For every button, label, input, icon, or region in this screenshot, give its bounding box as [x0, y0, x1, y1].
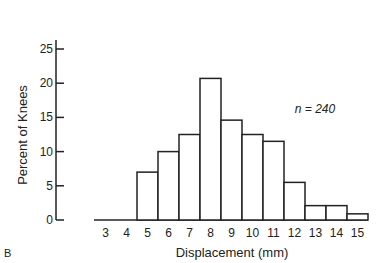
y-tick-label: 15: [40, 110, 54, 124]
x-tick-label: 4: [123, 226, 130, 240]
bar-10: [242, 135, 263, 221]
x-tick-label: 3: [102, 226, 109, 240]
y-tick-label: 20: [40, 76, 54, 90]
bar-15: [347, 214, 368, 220]
histogram-chart: 0510152025 3456789101112131415 Percent o…: [0, 0, 392, 263]
y-tick-label: 10: [40, 145, 54, 159]
bar-8: [200, 78, 221, 220]
x-tick-labels: 3456789101112131415: [102, 226, 364, 240]
bars: [94, 78, 368, 220]
x-tick-label: 10: [246, 226, 260, 240]
y-tick-label: 25: [40, 42, 54, 56]
bar-13: [305, 206, 326, 220]
sample-size-annotation: n = 240: [295, 102, 336, 116]
bar-9: [221, 120, 242, 220]
x-tick-label: 8: [207, 226, 214, 240]
x-tick-label: 9: [228, 226, 235, 240]
x-tick-label: 11: [267, 226, 280, 240]
x-axis-label: Displacement (mm): [176, 245, 289, 260]
x-tick-label: 12: [288, 226, 302, 240]
x-tick-label: 15: [351, 226, 365, 240]
bar-12: [284, 182, 305, 220]
y-tick-label: 5: [46, 179, 53, 193]
bar-5: [137, 172, 158, 220]
y-axis-label: Percent of Knees: [15, 85, 30, 185]
bar-11: [263, 141, 284, 220]
x-tick-label: 5: [144, 226, 151, 240]
x-tick-label: 6: [165, 226, 172, 240]
y-axis: 0510152025: [40, 40, 64, 227]
panel-label: B: [4, 247, 11, 259]
bar-6: [158, 152, 179, 220]
x-tick-label: 13: [309, 226, 323, 240]
y-tick-label: 0: [46, 213, 53, 227]
x-tick-label: 14: [330, 226, 344, 240]
bar-7: [179, 135, 200, 221]
x-tick-label: 7: [186, 226, 193, 240]
bar-14: [326, 206, 347, 220]
